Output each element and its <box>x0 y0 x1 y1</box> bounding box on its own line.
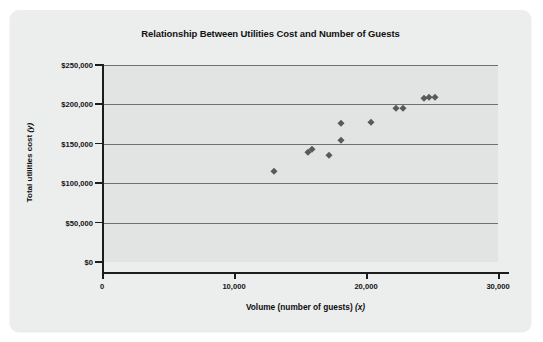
y-tick-mark <box>95 222 103 224</box>
data-point <box>338 137 344 143</box>
y-tick-mark <box>95 261 103 263</box>
y-tick-label: $200,000 <box>31 100 93 109</box>
y-axis-title: Total utilities cost (y) <box>25 93 34 233</box>
y-tick-mark <box>95 143 103 145</box>
y-axis-title-text: Total utilities cost <box>25 135 34 202</box>
gridline-100000 <box>102 183 498 184</box>
gridline-250000 <box>102 65 498 66</box>
x-axis-title-text: Volume (number of guests) <box>246 302 353 312</box>
plot-area <box>102 65 498 262</box>
x-axis-title: Volume (number of guests) (x) <box>102 302 509 312</box>
data-point <box>270 168 276 174</box>
y-tick-label: $100,000 <box>31 179 93 188</box>
data-point <box>393 105 399 111</box>
gridline-200000 <box>102 104 498 105</box>
y-tick-label: $150,000 <box>31 139 93 148</box>
y-tick-mark <box>95 182 103 184</box>
data-point <box>326 152 332 158</box>
y-axis-tick-labels: $250,000 $200,000 $150,000 $100,000 $50,… <box>25 10 93 331</box>
x-tick-mark <box>498 272 500 279</box>
y-tick-label: $50,000 <box>31 218 93 227</box>
data-point <box>338 120 344 126</box>
chart-panel: Relationship Between Utilities Cost and … <box>10 10 531 331</box>
y-tick-mark <box>95 64 103 66</box>
x-tick-label: 0 <box>100 282 104 291</box>
gridline-50000 <box>102 223 498 224</box>
y-axis-variable: (y) <box>25 123 34 133</box>
data-point <box>431 94 437 100</box>
gridline-150000 <box>102 144 498 145</box>
y-axis-line <box>102 64 104 273</box>
y-tick-label: $0 <box>31 258 93 267</box>
x-tick-mark <box>234 272 236 279</box>
y-tick-label: $250,000 <box>31 61 93 70</box>
x-tick-label: 20,000 <box>354 282 377 291</box>
x-tick-label: 30,000 <box>486 282 509 291</box>
x-axis-variable: (x) <box>355 302 365 312</box>
x-tick-mark <box>102 272 104 279</box>
y-tick-mark <box>95 103 103 105</box>
data-point <box>368 118 374 124</box>
x-tick-label: 10,000 <box>222 282 245 291</box>
x-axis-line <box>102 272 509 274</box>
x-tick-mark <box>366 272 368 279</box>
